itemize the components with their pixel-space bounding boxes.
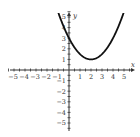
y-tick-label: −4 <box>56 109 66 117</box>
y-tick-label: 2 <box>62 45 66 53</box>
y-tick-label: −5 <box>56 119 66 127</box>
y-tick-label: 5 <box>62 13 66 21</box>
x-tick-label: −3 <box>30 73 40 81</box>
x-tick-label: −2 <box>41 73 51 81</box>
y-tick-label: 3 <box>62 35 66 43</box>
y-tick-label: 1 <box>62 56 66 64</box>
x-tick-label: 4 <box>111 73 115 81</box>
x-tick-label: 1 <box>78 73 82 81</box>
y-axis-arrow-icon <box>67 12 71 16</box>
x-tick-label: 2 <box>89 73 93 81</box>
x-tick-label: −4 <box>19 73 29 81</box>
x-axis-label: x <box>131 61 135 69</box>
x-tick-label: −5 <box>8 73 18 81</box>
y-tick-label: −2 <box>56 88 66 96</box>
x-tick-label: 5 <box>122 73 126 81</box>
coordinate-plane: −5−4−3−2−112345−5−4−3−2−112345 x y <box>0 0 140 137</box>
y-tick-label: −1 <box>56 77 66 85</box>
x-tick-label: 3 <box>100 73 104 81</box>
y-axis-label: y <box>72 12 78 20</box>
y-tick-label: −3 <box>56 98 66 106</box>
